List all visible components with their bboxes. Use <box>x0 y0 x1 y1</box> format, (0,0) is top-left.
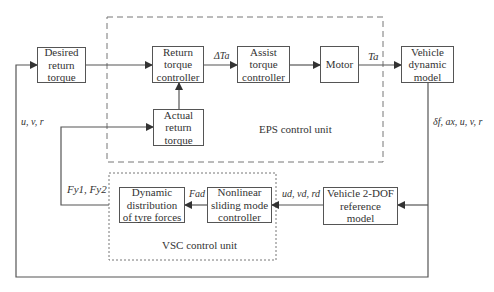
fad-label: Fad <box>189 188 205 199</box>
vehicle-outputs-label: δf, ax, u, v, r <box>433 116 482 127</box>
assist-torque-controller-block: Assist torque controller <box>237 46 290 83</box>
delta-ta-label: ΔTa <box>214 50 230 61</box>
desired-return-torque-block: Desired return torque <box>37 47 86 83</box>
sliding-mode-controller-block: Nonlinear sliding mode controller <box>207 187 272 223</box>
vehicle-dynamic-model-block: Vehicle dynamic model <box>401 46 454 83</box>
ta-label: Ta <box>368 50 379 62</box>
reference-model-block: Vehicle 2-DOF reference model <box>323 187 398 225</box>
vsc-unit-label: VSC control unit <box>162 239 237 251</box>
fy-label: Fy1, Fy2 <box>67 183 107 195</box>
motor-block: Motor <box>320 46 359 83</box>
uvr-label: u, v, r <box>21 116 44 127</box>
reference-signals-label: ud, vd, rd <box>282 188 320 199</box>
connection-lines <box>0 0 494 292</box>
actual-return-torque-block: Actual return torque <box>153 109 204 146</box>
return-torque-controller-block: Return torque controller <box>152 46 204 83</box>
eps-unit-label: EPS control unit <box>259 123 332 135</box>
tyre-force-distribution-block: Dynamic distribution of tyre forces <box>119 187 185 223</box>
